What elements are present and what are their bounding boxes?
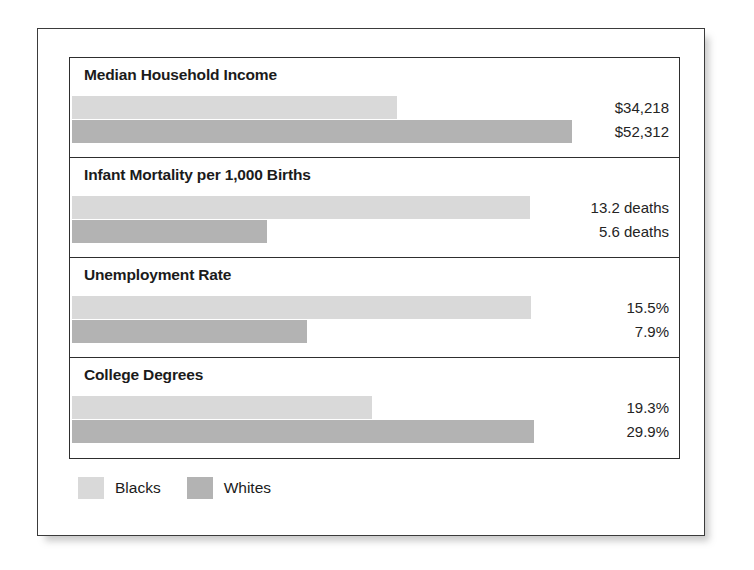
- section-bars: 13.2 deaths 5.6 deaths: [70, 194, 679, 250]
- bar-blacks: [72, 396, 372, 419]
- legend-entry-whites: Whites: [187, 477, 271, 499]
- section-bars: $34,218 $52,312: [70, 94, 679, 150]
- value-label-whites: 29.9%: [549, 420, 669, 443]
- chart-section: Median Household Income $34,218 $52,312: [70, 58, 679, 158]
- bar-row-blacks: 15.5%: [70, 296, 679, 320]
- legend-label-blacks: Blacks: [115, 479, 161, 497]
- scanned-page-background: Median Household Income $34,218 $52,312 …: [0, 0, 754, 570]
- chart-section: College Degrees 19.3% 29.9%: [70, 358, 679, 457]
- legend-label-whites: Whites: [224, 479, 271, 497]
- chart-legend: Blacks Whites: [78, 477, 271, 499]
- bar-row-whites: 29.9%: [70, 420, 679, 444]
- section-title: Median Household Income: [84, 66, 277, 84]
- legend-swatch-whites: [187, 477, 213, 499]
- bar-whites: [72, 220, 267, 243]
- bar-whites: [72, 120, 572, 143]
- value-label-whites: $52,312: [549, 120, 669, 143]
- bar-row-blacks: $34,218: [70, 96, 679, 120]
- value-label-whites: 5.6 deaths: [549, 220, 669, 243]
- section-title: Infant Mortality per 1,000 Births: [84, 166, 311, 184]
- bar-whites: [72, 320, 307, 343]
- figure-outer-frame: Median Household Income $34,218 $52,312 …: [37, 28, 705, 536]
- bar-row-blacks: 19.3%: [70, 396, 679, 420]
- section-title: College Degrees: [84, 366, 203, 384]
- section-title: Unemployment Rate: [84, 266, 231, 284]
- bar-row-whites: 5.6 deaths: [70, 220, 679, 244]
- value-label-whites: 7.9%: [549, 320, 669, 343]
- bar-blacks: [72, 296, 531, 319]
- value-label-blacks: 13.2 deaths: [549, 196, 669, 219]
- chart-section: Infant Mortality per 1,000 Births 13.2 d…: [70, 158, 679, 258]
- comparison-bar-chart: Median Household Income $34,218 $52,312 …: [69, 57, 680, 459]
- section-bars: 15.5% 7.9%: [70, 294, 679, 350]
- value-label-blacks: 15.5%: [549, 296, 669, 319]
- bar-row-blacks: 13.2 deaths: [70, 196, 679, 220]
- legend-entry-blacks: Blacks: [78, 477, 161, 499]
- bar-whites: [72, 420, 534, 443]
- bar-row-whites: 7.9%: [70, 320, 679, 344]
- bar-blacks: [72, 196, 530, 219]
- section-bars: 19.3% 29.9%: [70, 394, 679, 450]
- chart-section: Unemployment Rate 15.5% 7.9%: [70, 258, 679, 358]
- bar-blacks: [72, 96, 397, 119]
- bar-row-whites: $52,312: [70, 120, 679, 144]
- value-label-blacks: 19.3%: [549, 396, 669, 419]
- value-label-blacks: $34,218: [549, 96, 669, 119]
- legend-swatch-blacks: [78, 477, 104, 499]
